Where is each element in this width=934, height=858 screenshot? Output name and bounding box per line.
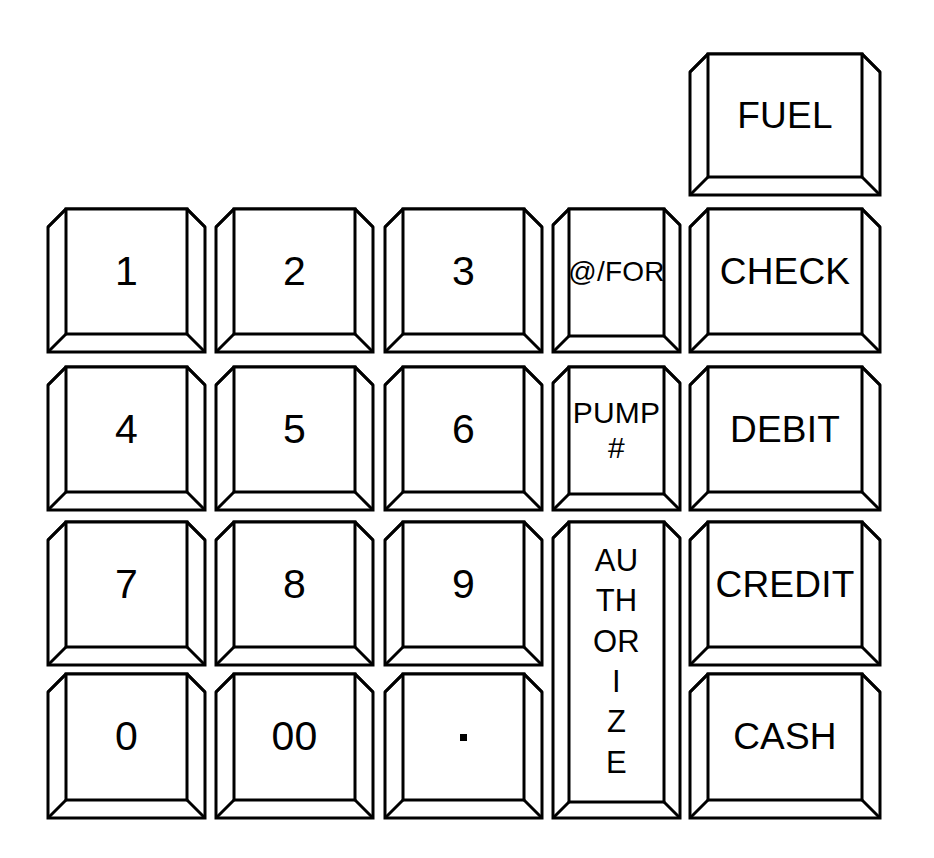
key-four[interactable] <box>48 367 205 510</box>
key-seven[interactable] <box>48 522 205 665</box>
key-fuel[interactable] <box>690 54 880 195</box>
key-two[interactable] <box>216 209 373 352</box>
key-pump-number[interactable] <box>553 367 680 510</box>
keypad-key-hitboxes <box>0 0 934 858</box>
key-six[interactable] <box>385 367 542 510</box>
key-at-for[interactable] <box>553 209 680 352</box>
key-double-zero[interactable] <box>216 674 373 818</box>
key-debit[interactable] <box>690 367 880 510</box>
key-nine[interactable] <box>385 522 542 665</box>
key-five[interactable] <box>216 367 373 510</box>
key-decimal-point[interactable] <box>385 674 542 818</box>
key-authorize[interactable] <box>553 522 680 818</box>
key-eight[interactable] <box>216 522 373 665</box>
key-check[interactable] <box>690 209 880 352</box>
key-credit[interactable] <box>690 522 880 665</box>
key-one[interactable] <box>48 209 205 352</box>
key-cash[interactable] <box>690 674 880 818</box>
key-zero[interactable] <box>48 674 205 818</box>
keypad-diagram: FUEL123@/FORCHECK456PUMP#DEBIT789AUTHORI… <box>0 0 934 858</box>
key-three[interactable] <box>385 209 542 352</box>
